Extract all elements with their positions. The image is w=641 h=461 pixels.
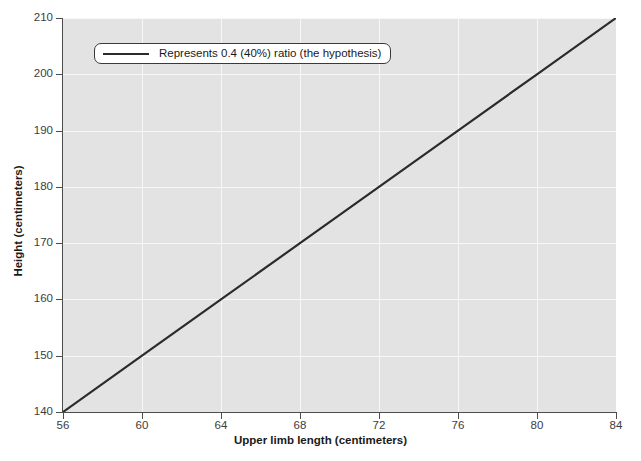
x-axis-tick-label: 68 (280, 420, 320, 432)
y-axis-tick (56, 18, 62, 19)
y-axis-tick (56, 131, 62, 132)
y-axis-tick-label: 200 (13, 68, 53, 80)
chart-legend: Represents 0.4 (40%) ratio (the hypothes… (94, 43, 391, 64)
legend-line-swatch (103, 53, 149, 55)
y-axis-tick-label: 150 (13, 350, 53, 362)
y-axis-tick (56, 299, 62, 300)
series-line-hypothesis (63, 18, 616, 412)
y-axis-tick-label: 140 (13, 406, 53, 418)
x-axis-tick-label: 64 (201, 420, 241, 432)
x-axis-spine (62, 412, 617, 413)
y-axis-tick (56, 412, 62, 413)
x-axis-tick-label: 80 (517, 420, 557, 432)
legend-entry-label: Represents 0.4 (40%) ratio (the hypothes… (159, 48, 381, 60)
plot-area (63, 18, 616, 412)
x-axis-tick-label: 76 (438, 420, 478, 432)
x-axis-title: Upper limb length (centimeters) (0, 434, 641, 446)
y-axis-spine (62, 18, 63, 413)
chart-figure: 140150160170180190200210 566064687276808… (0, 0, 641, 461)
y-axis-tick (56, 187, 62, 188)
x-axis-tick-label: 72 (359, 420, 399, 432)
y-axis-tick-label: 210 (13, 12, 53, 24)
x-axis-tick-label: 84 (596, 420, 636, 432)
series-line-group (63, 18, 616, 412)
x-axis-tick-label: 60 (122, 420, 162, 432)
y-axis-tick (56, 243, 62, 244)
y-axis-title: Height (centimeters) (12, 121, 24, 321)
y-axis-tick (56, 356, 62, 357)
x-axis-tick-label: 56 (43, 420, 83, 432)
y-axis-tick (56, 74, 62, 75)
